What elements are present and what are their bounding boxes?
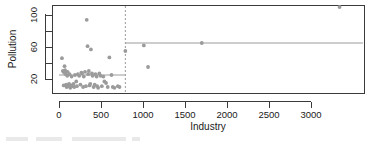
- data-point: [70, 75, 74, 79]
- data-point: [146, 65, 150, 69]
- y-axis-title: Pollution: [7, 30, 18, 68]
- data-point: [95, 75, 99, 79]
- data-point: [108, 56, 112, 60]
- data-point: [63, 64, 67, 68]
- x-tick-label: 500: [93, 109, 109, 120]
- scan-noise-artifact: [6, 137, 140, 141]
- chart-figure: 2060100 Pollution 0500100015002000250030…: [0, 0, 381, 148]
- data-point: [101, 75, 105, 79]
- data-point: [86, 44, 90, 48]
- data-point: [60, 56, 64, 60]
- data-point: [123, 49, 127, 53]
- data-point: [200, 41, 204, 45]
- data-point: [85, 18, 89, 22]
- data-point: [83, 70, 87, 74]
- x-tick-label: 2000: [216, 109, 237, 120]
- x-tick-label: 2500: [258, 109, 279, 120]
- data-point: [75, 84, 79, 88]
- scatter-plot-canvas: 2060100 Pollution 0500100015002000250030…: [0, 0, 381, 148]
- data-point: [142, 44, 146, 48]
- x-axis-title: Industry: [190, 121, 226, 132]
- data-point: [84, 84, 88, 88]
- y-tick-label: 100: [28, 7, 39, 23]
- y-tick-label: 60: [28, 42, 39, 53]
- x-tick-label: 1000: [132, 109, 153, 120]
- data-point: [87, 69, 91, 73]
- y-tick-label: 20: [28, 74, 39, 85]
- data-point: [74, 80, 78, 84]
- data-point: [106, 85, 110, 89]
- data-point: [86, 72, 90, 76]
- data-point: [110, 73, 114, 77]
- data-point: [96, 86, 100, 90]
- data-point: [104, 81, 108, 85]
- data-point: [100, 84, 104, 88]
- data-point: [88, 82, 92, 86]
- data-point: [82, 75, 86, 79]
- x-tick-label: 3000: [300, 109, 321, 120]
- data-point: [89, 48, 93, 52]
- data-point: [113, 86, 117, 90]
- x-tick-label: 1500: [174, 109, 195, 120]
- data-point: [77, 74, 81, 78]
- data-point: [118, 85, 122, 89]
- x-tick-label: 0: [56, 109, 61, 120]
- data-point: [338, 5, 342, 9]
